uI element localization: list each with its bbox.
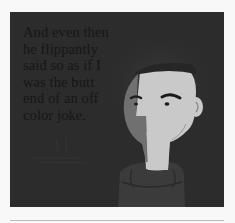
caption-line: color joke. <box>23 107 133 124</box>
caption-line: was the butt <box>23 74 133 91</box>
ear <box>189 97 203 117</box>
page: And even then he flippantly said so as i… <box>0 0 235 223</box>
eye-right <box>165 102 170 106</box>
caption-line: said so as if I <box>23 57 133 74</box>
comic-panel: And even then he flippantly said so as i… <box>10 12 224 207</box>
caption-line: he flippantly <box>23 41 133 58</box>
caption-line: end of an off <box>23 90 133 107</box>
caption-text: And even then he flippantly said so as i… <box>23 24 133 124</box>
eye-left <box>134 102 138 105</box>
background-marks <box>32 138 88 163</box>
page-edge-line <box>10 220 224 221</box>
caption-line: And even then <box>23 24 133 41</box>
